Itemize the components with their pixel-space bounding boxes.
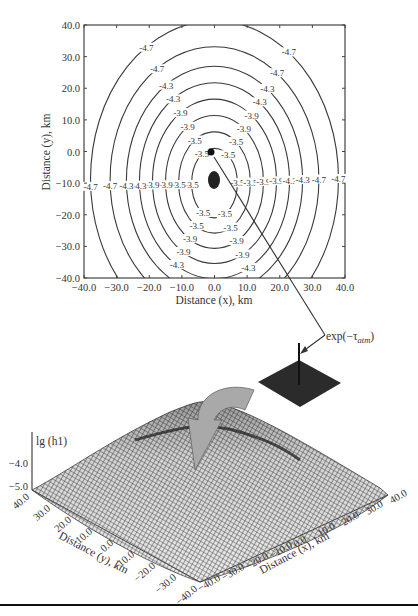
contour-label: -4.3 — [132, 181, 147, 191]
contour-label: -4.3 — [241, 263, 256, 273]
contour-label: -3.5 — [196, 208, 211, 218]
contour-label: -4.3 — [159, 81, 174, 91]
kernel-label: exp(−τatm) — [326, 330, 374, 345]
contour-label: -4.3 — [166, 94, 181, 104]
svg-text:−30.0: −30.0 — [56, 241, 80, 252]
svg-text:−40.0: −40.0 — [56, 273, 80, 284]
x-axis-ticks: −40.0−30.0−20.0−10.00.010.020.030.040.0 — [72, 25, 354, 293]
svg-text:10.0: 10.0 — [238, 282, 256, 293]
figure-canvas: -3.5-3.5-3.5-3.5-3.5-3.5-3.5-3.5-3.5-3.5… — [0, 0, 418, 616]
svg-text:−10.0: −10.0 — [56, 178, 80, 189]
contour-label: -4.7 — [282, 47, 297, 57]
svg-text:−20.0: −20.0 — [132, 560, 158, 584]
contour-label: -3.9 — [237, 124, 252, 134]
svg-text:10.0: 10.0 — [62, 115, 80, 126]
svg-text:−20.0: −20.0 — [56, 210, 80, 221]
contour-label: -3.9 — [235, 250, 250, 260]
contour-label: -3.9 — [180, 122, 195, 132]
bottom-rule — [0, 604, 418, 606]
svg-text:−30.0: −30.0 — [153, 572, 179, 596]
contour-label: -3.5 — [229, 137, 244, 147]
z-axis-label: lg (h1) — [36, 435, 67, 448]
contour-label: -3.5 — [224, 223, 239, 233]
contour-label: -3.9 — [176, 247, 191, 257]
contour-label: -3.9 — [158, 180, 173, 190]
x-axis-label: Distance (x), km — [176, 294, 253, 307]
contour-label: -4.7 — [139, 43, 154, 53]
contour-label: -3.5 — [218, 209, 233, 219]
svg-text:30.0: 30.0 — [31, 503, 52, 523]
svg-text:−20.0: −20.0 — [137, 282, 161, 293]
contour-label: -4.7 — [150, 64, 165, 74]
svg-text:40.0: 40.0 — [388, 487, 409, 506]
source-point — [208, 149, 215, 156]
contour-label: -3.9 — [145, 180, 160, 190]
contour-label: -3.5 — [189, 221, 204, 231]
svg-text:−30.0: −30.0 — [104, 282, 128, 293]
contour-label: -4.7 — [270, 68, 285, 78]
contour-label: -3.9 — [245, 111, 260, 121]
contour-label: -4.3 — [260, 84, 275, 94]
kernel-surface — [258, 343, 341, 407]
contour-label: -3.9 — [229, 236, 244, 246]
z-tick: −4.0 — [9, 458, 28, 469]
svg-text:0.0: 0.0 — [208, 282, 221, 293]
contour-label: -3.5 — [185, 180, 200, 190]
svg-text:30.0: 30.0 — [303, 282, 321, 293]
contour-plot: -3.5-3.5-3.5-3.5-3.5-3.5-3.5-3.5-3.5-3.5… — [40, 20, 354, 337]
svg-text:40.0: 40.0 — [336, 282, 354, 293]
contour-label: -4.7 — [331, 174, 346, 184]
contour-label: -3.9 — [183, 234, 198, 244]
contour-label: -4.3 — [295, 175, 310, 185]
contour-label: -3.5 — [195, 149, 210, 159]
contour-label: -4.7 — [312, 175, 327, 185]
svg-text:0.0: 0.0 — [67, 147, 80, 158]
plot-frame — [84, 25, 345, 278]
svg-text:40.0: 40.0 — [62, 20, 80, 31]
svg-text:30.0: 30.0 — [62, 52, 80, 63]
contour-label: -3.5 — [221, 150, 236, 160]
y-axis-label: Distance (y), km — [40, 113, 53, 190]
svg-text:40.0: 40.0 — [10, 491, 31, 511]
contour-label: -3.9 — [173, 108, 188, 118]
svg-text:20.0: 20.0 — [62, 83, 80, 94]
z-tick: −5.0 — [9, 481, 28, 492]
contour-label: -4.3 — [119, 181, 134, 191]
peak-region — [208, 171, 220, 189]
contour-label: -3.5 — [188, 136, 203, 146]
contour-label: -4.3 — [252, 97, 267, 107]
contour-label: -4.7 — [103, 181, 118, 191]
contour-label: -3.5 — [171, 180, 186, 190]
contour-label: -4.3 — [170, 260, 185, 270]
svg-text:−10.0: −10.0 — [170, 282, 194, 293]
svg-text:20.0: 20.0 — [271, 282, 289, 293]
